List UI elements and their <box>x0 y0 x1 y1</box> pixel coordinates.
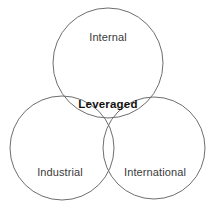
label-leveraged: Leveraged <box>78 99 137 111</box>
label-internal: Internal <box>89 32 127 43</box>
label-international: International <box>124 167 186 178</box>
circle-industrial <box>10 96 114 200</box>
venn-diagram: Internal Leveraged Industrial Internatio… <box>0 0 214 209</box>
label-industrial: Industrial <box>37 167 83 178</box>
circle-international <box>103 97 205 199</box>
